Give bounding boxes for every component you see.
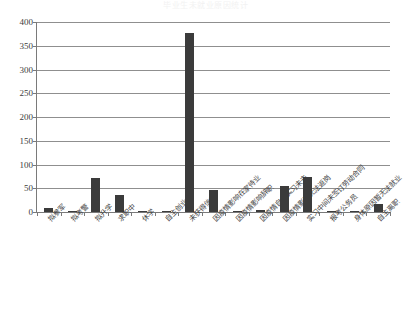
y-tick-label: 250 bbox=[3, 89, 33, 98]
y-tick-label: 0 bbox=[3, 208, 33, 217]
gridline bbox=[37, 70, 390, 71]
gridline bbox=[37, 117, 390, 118]
y-tick-label: 300 bbox=[3, 66, 33, 75]
x-tick-mark bbox=[37, 212, 38, 216]
bar bbox=[185, 33, 194, 212]
plot-area bbox=[37, 22, 390, 212]
y-tick-label: 200 bbox=[3, 113, 33, 122]
gridline bbox=[37, 46, 390, 47]
y-tick-label: 400 bbox=[3, 18, 33, 27]
gridline bbox=[37, 93, 390, 94]
y-tick-label: 350 bbox=[3, 42, 33, 51]
gridline bbox=[37, 165, 390, 166]
chart-title: 毕业生未就业原因统计 bbox=[0, 0, 411, 9]
y-tick-label: 150 bbox=[3, 137, 33, 146]
bar-chart: 毕业生未就业原因统计 050100150200250300350400 拟参军拟… bbox=[0, 0, 411, 334]
gridline bbox=[37, 141, 390, 142]
y-tick-label: 100 bbox=[3, 161, 33, 170]
bar bbox=[91, 178, 100, 212]
y-axis-labels: 050100150200250300350400 bbox=[0, 0, 33, 334]
y-tick-label: 50 bbox=[3, 184, 33, 193]
bar bbox=[115, 195, 124, 212]
gridline bbox=[37, 22, 390, 23]
